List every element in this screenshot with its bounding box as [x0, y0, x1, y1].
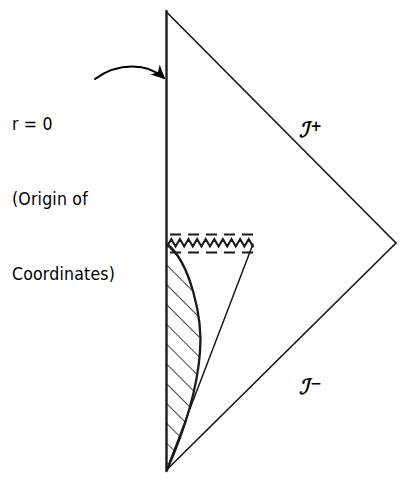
scri-minus-symbol: ℐ: [299, 374, 309, 399]
origin-label-line-1: r = 0: [12, 112, 115, 137]
scri-minus-sign: −: [310, 375, 322, 391]
scri-plus-sign: +: [310, 118, 322, 134]
penrose-diagram-figure: r = 0 (Origin of Coordinates) ℐ+ ℐ−: [0, 0, 410, 494]
scri-plus-symbol: ℐ: [299, 117, 309, 142]
collapsing-matter-region: [160, 238, 220, 478]
future-null-infinity-label: ℐ+: [278, 98, 322, 161]
origin-label-line-3: Coordinates): [12, 262, 115, 287]
past-null-infinity-label: ℐ−: [278, 355, 322, 418]
singularity-zigzag: [167, 239, 253, 247]
origin-label-line-2: (Origin of: [12, 187, 115, 212]
origin-of-coordinates-label: r = 0 (Origin of Coordinates): [12, 62, 115, 337]
